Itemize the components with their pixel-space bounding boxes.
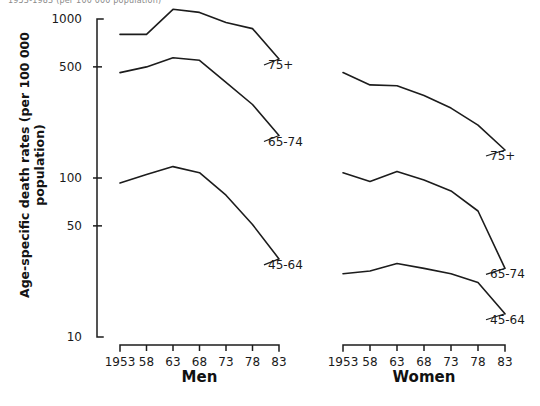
- x-axis-tick-label: 63: [165, 355, 180, 369]
- x-axis-tick-label: 58: [362, 355, 377, 369]
- x-axis-tick-label: 73: [443, 355, 458, 369]
- series-label-men-45-64: 45-64: [268, 258, 303, 272]
- series-label-women-65-74: 65-74: [490, 267, 525, 281]
- series-line-women-65-74: [343, 171, 505, 268]
- series-line-men-45-64: [120, 167, 279, 259]
- series-line-women-45-64: [343, 264, 505, 314]
- series-line-women-75+: [343, 73, 505, 150]
- panel-title-women: Women: [393, 368, 456, 386]
- x-axis-tick-label: 68: [192, 355, 207, 369]
- series-label-women-75+: 75+: [490, 149, 515, 163]
- x-axis-tick-label: 83: [497, 355, 512, 369]
- x-axis-tick-label: 73: [218, 355, 233, 369]
- series-label-men-75+: 75+: [268, 58, 293, 72]
- series-label-women-45-64: 45-64: [490, 313, 525, 327]
- x-axis-tick-label: 78: [470, 355, 485, 369]
- x-axis-tick-label: 1953: [328, 355, 359, 369]
- series-label-men-65-74: 65-74: [268, 135, 303, 149]
- chart-figure: 1953-1983 (per 100 000 population) Age-s…: [0, 0, 540, 406]
- series-line-men-75+: [120, 9, 279, 59]
- x-axis-tick-label: 78: [245, 355, 260, 369]
- x-axis-tick-label: 63: [389, 355, 404, 369]
- x-axis-tick-label: 58: [139, 355, 154, 369]
- x-axis-tick-label: 1953: [105, 355, 136, 369]
- x-axis-tick-label: 68: [416, 355, 431, 369]
- x-axis-tick-label: 83: [271, 355, 286, 369]
- series-line-men-65-74: [120, 58, 279, 136]
- panel-title-men: Men: [182, 368, 218, 386]
